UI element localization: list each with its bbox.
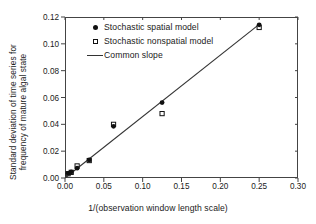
legend-item-spatial: Stochastic spatial model: [86, 20, 256, 34]
y-tick-label: 0.00: [33, 174, 59, 183]
legend-item-common-slope: Common slope: [86, 48, 256, 62]
legend: Stochastic spatial model Stochastic nons…: [86, 20, 256, 62]
x-tick-label: 0.10: [135, 182, 151, 191]
line-marker-icon: [86, 55, 104, 56]
legend-label-common-slope: Common slope: [104, 50, 163, 60]
x-tick-label: 0.25: [251, 182, 267, 191]
x-tick-label: 0.20: [212, 182, 228, 191]
x-tick-label: 0.15: [174, 182, 190, 191]
y-tick-label: 0.10: [33, 39, 59, 48]
x-tick-label: 0.00: [57, 182, 73, 191]
y-tick-label: 0.04: [33, 120, 59, 129]
open-square-marker-icon: [86, 39, 104, 44]
y-tick-label: 0.06: [33, 93, 59, 102]
legend-label-spatial: Stochastic spatial model: [104, 22, 199, 32]
y-tick-label: 0.08: [33, 66, 59, 75]
figure-panel: Standard deviation of time series for fr…: [0, 0, 316, 224]
y-axis-label-line-1: Standard deviation of time series for: [8, 44, 19, 180]
y-axis-label: Standard deviation of time series for fr…: [0, 0, 36, 224]
legend-label-nonspatial: Stochastic nonspatial model: [104, 36, 213, 46]
filled-circle-marker-icon: [86, 25, 104, 30]
y-tick-label: 0.12: [33, 13, 59, 22]
x-tick-label: 0.05: [96, 182, 112, 191]
y-tick-label: 0.02: [33, 147, 59, 156]
y-axis-label-line-2: frequency of mature algal state: [18, 44, 29, 180]
x-tick-label: 0.30: [290, 182, 306, 191]
x-axis-label: 1/(observation window length scale): [0, 203, 316, 213]
legend-item-nonspatial: Stochastic nonspatial model: [86, 34, 256, 48]
